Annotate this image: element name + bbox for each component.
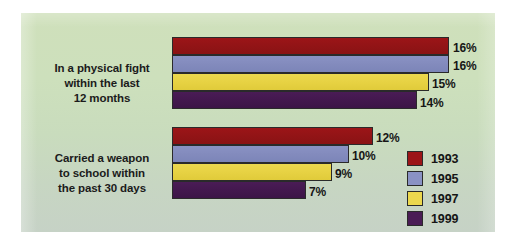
bar-carried-weapon-1999 [172, 181, 306, 199]
bar-chart-figure: In a physical fight within the last 12 m… [21, 13, 495, 232]
bar-physical-fight-1997 [172, 73, 429, 91]
legend-item-1999: 1999 [407, 209, 489, 228]
category-label-line: 12 months [29, 91, 175, 106]
bar-value-physical-fight-1997: 15% [432, 77, 455, 91]
category-label-carried-weapon: Carried a weapon to school within the pa… [29, 151, 175, 196]
legend-label-1997: 1997 [431, 192, 458, 206]
legend-label-1993: 1993 [431, 152, 458, 166]
legend-item-1995: 1995 [407, 169, 489, 188]
category-label-line: Carried a weapon [29, 151, 175, 166]
category-label-line: In a physical fight [29, 61, 175, 76]
bar-physical-fight-1995 [172, 55, 449, 73]
bar-value-carried-weapon-1993: 12% [376, 131, 399, 145]
bar-carried-weapon-1997 [172, 163, 332, 181]
bar-carried-weapon-1993 [172, 127, 373, 145]
legend-label-1995: 1995 [431, 172, 458, 186]
legend-item-1993: 1993 [407, 149, 489, 168]
category-label-physical-fight: In a physical fight within the last 12 m… [29, 61, 175, 106]
legend-swatch-icon-1999 [407, 211, 423, 226]
legend-swatch-icon-1995 [407, 171, 423, 186]
legend-item-1997: 1997 [407, 189, 489, 208]
bar-physical-fight-1993 [172, 37, 449, 55]
bar-value-physical-fight-1993: 16% [453, 41, 476, 55]
bar-value-carried-weapon-1995: 10% [352, 149, 375, 163]
legend-label-1999: 1999 [431, 212, 458, 226]
bar-value-physical-fight-1999: 14% [420, 96, 443, 110]
category-label-line: the past 30 days [29, 181, 175, 196]
legend-swatch-icon-1997 [407, 191, 423, 206]
category-label-line: to school within [29, 166, 175, 181]
category-label-line: within the last [29, 76, 175, 91]
bar-carried-weapon-1995 [172, 145, 349, 163]
chart-legend: 1993 1995 1997 1999 [407, 149, 489, 229]
bar-value-carried-weapon-1997: 9% [335, 167, 352, 181]
bar-value-carried-weapon-1999: 7% [309, 185, 326, 199]
legend-swatch-icon-1993 [407, 151, 423, 166]
bar-physical-fight-1999 [172, 91, 417, 109]
bar-value-physical-fight-1995: 16% [453, 59, 476, 73]
